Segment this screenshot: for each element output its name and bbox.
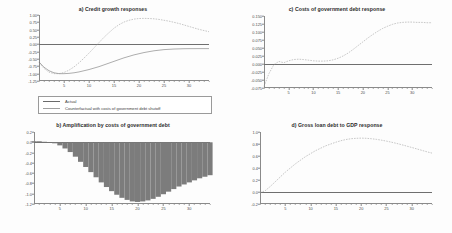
panel-b-x-minor-tick [153, 204, 154, 205]
panel-b-x-minor-tick [142, 204, 143, 205]
panel-a-x-tick-mark [139, 81, 140, 83]
legend-label-counterfactual: Counterfactual with costs of government … [65, 106, 161, 111]
panel-d-x-tick-mark [285, 204, 286, 206]
panel-d-plot: 1.00.80.60.40.20.0-0.2 51015202530 [260, 132, 432, 204]
panel-c-x-minor-tick [284, 88, 285, 89]
panel-d-x-minor-tick [432, 204, 433, 205]
panel-d-x-minor-tick [371, 204, 372, 205]
panel-d-x-minor-tick [401, 204, 402, 205]
panel-b-bar [187, 142, 192, 182]
panel-d-x-tick-label: 10 [308, 206, 312, 211]
panel-b-x-minor-tick [101, 204, 102, 205]
panel-a-x-minor-tick [44, 81, 45, 82]
panel-a-y-tick-label: 1.00 [29, 13, 37, 18]
panel-b-x-tick-label: 15 [109, 206, 113, 211]
panel-c-y-tick-label: 0.100 [252, 30, 262, 35]
panel-a-x-minor-tick [204, 81, 205, 82]
panel-b-x-minor-tick [80, 204, 81, 205]
panel-a-x-minor-tick [134, 81, 135, 82]
panel-b-x-minor-tick [44, 204, 45, 205]
panel-c-x-minor-tick [382, 88, 383, 89]
panel-a-x-minor-tick [169, 81, 170, 82]
panel-b-bar [171, 142, 176, 189]
panel-a-x-minor-tick [194, 81, 195, 82]
panel-d-x-tick-mark [336, 204, 337, 206]
panel-b-x-tick-mark [163, 204, 164, 206]
panel-d-x-minor-tick [427, 204, 428, 205]
panel-b-bar [176, 142, 181, 186]
panel-b: b) Amplification by costs of government … [8, 122, 218, 222]
panel-a-y-tick-label: -0.75 [28, 64, 37, 69]
panel-b-x-minor-tick [132, 204, 133, 205]
panel-a-x-tick-mark [189, 81, 190, 83]
panel-b-x-tick-label: 5 [59, 206, 61, 211]
panel-b-bar [202, 142, 207, 176]
panel-b-bar [161, 142, 166, 194]
panel-b-bar [197, 142, 202, 178]
panel-c-x-tick-label: 20 [361, 90, 365, 95]
panel-b-x-minor-tick [168, 204, 169, 205]
panel-b-x-minor-tick [174, 204, 175, 205]
panel-c-x-minor-tick [427, 88, 428, 89]
panel-d-x-minor-tick [356, 204, 357, 205]
panel-a-x-minor-tick [99, 81, 100, 82]
panel-a-x-tick-label: 5 [63, 83, 65, 88]
panel-d-x-minor-tick [320, 204, 321, 205]
panel-c-x-tick-label: 15 [336, 90, 340, 95]
panel-c-plot: 0.1500.1250.1000.0750.0500.0250.000-0.02… [264, 16, 432, 88]
panel-d-x-minor-tick [422, 204, 423, 205]
legend-item-counterfactual: Counterfactual with costs of government … [39, 105, 211, 112]
panel-c-x-tick-mark [412, 88, 413, 90]
panel-b-bar [99, 142, 104, 182]
panel-b-bar [68, 142, 73, 152]
panel-c-x-minor-tick [407, 88, 408, 89]
panel-d-x-tick-mark [411, 204, 412, 206]
panel-d-x-minor-tick [331, 204, 332, 205]
panel-a-x-minor-tick [69, 81, 70, 82]
panel-b-bar [114, 142, 119, 194]
panel-c-x-tick-mark [363, 88, 364, 90]
panel-c-x-tick-label: 5 [288, 90, 290, 95]
panel-b-x-minor-tick [210, 204, 211, 205]
panel-c-x-minor-tick [353, 88, 354, 89]
panel-c-y-tick-label: 0.125 [252, 22, 262, 27]
panel-d-x-minor-tick [275, 204, 276, 205]
panel-a-x-minor-tick [199, 81, 200, 82]
panel-b-bar [31, 141, 36, 142]
panel-d-x-minor-tick [260, 204, 261, 205]
panel-c-x-minor-tick [432, 88, 433, 89]
panel-b-bar [88, 142, 93, 172]
panel-b-y-tick-label: -0.2 [25, 150, 32, 155]
panel-c-x-tick-label: 25 [385, 90, 389, 95]
panel-b-x-minor-tick [148, 204, 149, 205]
panel-a-x-minor-tick [119, 81, 120, 82]
panel-a-x-minor-tick [74, 81, 75, 82]
panel-d-x-minor-tick [396, 204, 397, 205]
panel-a-x-tick-mark [164, 81, 165, 83]
panel-d-x-tick-mark [386, 204, 387, 206]
panel-b-bars [34, 132, 210, 204]
panel-c-x-minor-tick [343, 88, 344, 89]
panel-b-x-minor-tick [106, 204, 107, 205]
panel-b-bar [57, 142, 62, 145]
panel-c-x-minor-tick [274, 88, 275, 89]
panel-d-x-minor-tick [300, 204, 301, 205]
panel-d-x-minor-tick [315, 204, 316, 205]
panel-c-x-minor-tick [402, 88, 403, 89]
panel-a-y-tick-label: -1.00 [28, 71, 37, 76]
panel-c-y-tick-label: 0.075 [252, 38, 262, 43]
legend-label-actual: Actual [65, 99, 76, 104]
panel-b-x-minor-tick [179, 204, 180, 205]
panel-b-bar [104, 142, 109, 187]
panel-b-bar [182, 142, 187, 184]
panel-b-y-tick-label: -0.8 [25, 181, 32, 186]
panel-c-x-tick-mark [387, 88, 388, 90]
panel-a-x-minor-tick [39, 81, 40, 82]
panel-a-x-minor-tick [54, 81, 55, 82]
panel-a-y-tick-label: 0.00 [29, 42, 37, 47]
legend-box: Actual Counterfactual with costs of gove… [38, 96, 212, 114]
panel-b-bar [62, 142, 67, 148]
panel-a-x-minor-tick [149, 81, 150, 82]
panel-b-bar [145, 142, 150, 200]
panel-b-bar [166, 142, 171, 191]
